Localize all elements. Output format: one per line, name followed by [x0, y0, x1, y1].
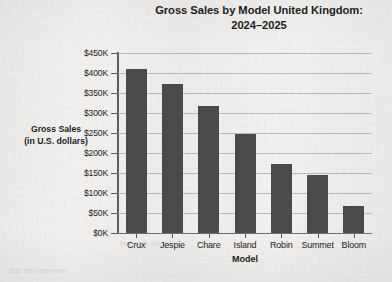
- y-axis-tick: [111, 153, 117, 154]
- y-axis-tick-label: $0K: [56, 228, 108, 238]
- bleed-through-text-top: reverse-side text: [120, 240, 175, 247]
- x-axis-tick: [318, 234, 319, 238]
- x-axis-tick: [136, 234, 137, 238]
- y-axis-tick-label: $200K: [56, 148, 108, 158]
- y-axis-tick: [111, 193, 117, 194]
- bleed-through-text-bottom: reverse-side text: [8, 266, 67, 275]
- y-axis-tick-labels: $0K$50K$100K$150K$200K$250K$300K$350K$40…: [53, 0, 108, 282]
- y-axis-tick: [111, 93, 117, 94]
- y-axis-tick: [111, 213, 117, 214]
- y-axis-tick: [111, 233, 117, 234]
- bar: [235, 134, 256, 233]
- y-axis-tick-label: $150K: [56, 168, 108, 178]
- chart-title-line2: 2024–2025: [128, 18, 390, 33]
- bar: [126, 69, 147, 233]
- chart-title-line1: Gross Sales by Model United Kingdom:: [155, 4, 363, 16]
- y-axis-tick-label: $400K: [56, 68, 108, 78]
- bar: [307, 175, 328, 233]
- x-axis-tick: [245, 234, 246, 238]
- bar: [343, 206, 364, 233]
- plot-area: [118, 53, 372, 233]
- bar: [162, 84, 183, 233]
- y-axis-tick-label: $100K: [56, 188, 108, 198]
- y-axis-tick-label: $50K: [56, 208, 108, 218]
- y-axis-tick-label: $250K: [56, 128, 108, 138]
- x-axis-title: Model: [118, 254, 372, 264]
- x-axis-tick-label: Bloom: [324, 240, 384, 250]
- y-axis-tick-label: $300K: [56, 108, 108, 118]
- y-axis-tick-label: $350K: [56, 88, 108, 98]
- chart-title: Gross Sales by Model United Kingdom: 202…: [128, 3, 390, 32]
- bar: [271, 164, 292, 233]
- y-axis-tick: [111, 173, 117, 174]
- y-axis-tick: [111, 73, 117, 74]
- y-axis-tick-label: $450K: [56, 48, 108, 58]
- bar: [198, 106, 219, 233]
- x-axis-tick: [172, 234, 173, 238]
- y-axis-tick: [111, 53, 117, 54]
- x-axis-tick: [354, 234, 355, 238]
- y-axis-tick: [111, 113, 117, 114]
- x-axis-tick: [281, 234, 282, 238]
- x-axis-tick: [209, 234, 210, 238]
- bar-series: [118, 53, 372, 233]
- y-axis-tick: [111, 133, 117, 134]
